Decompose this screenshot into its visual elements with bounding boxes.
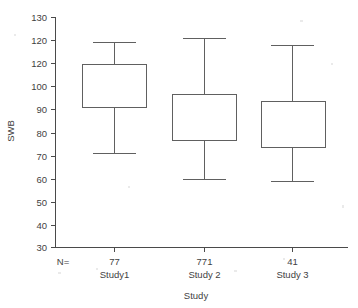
box-plot-group-study1 bbox=[83, 43, 147, 154]
y-tick-label-100: 100 bbox=[31, 81, 47, 92]
y-tick-label-80: 80 bbox=[36, 128, 47, 139]
box-body-3 bbox=[262, 101, 326, 147]
y-tick-label-60: 60 bbox=[36, 174, 47, 185]
n-row-prefix: N= bbox=[57, 256, 70, 267]
n-value-study3: 41 bbox=[287, 256, 298, 267]
x-tick-label-study2: Study 2 bbox=[188, 269, 220, 280]
y-tick-label-70: 70 bbox=[36, 151, 47, 162]
y-axis-title: SWB bbox=[5, 120, 16, 142]
x-axis-title: Study bbox=[184, 290, 209, 301]
y-tick-label-40: 40 bbox=[36, 220, 47, 231]
box-plot-figure: 130 120 120 100 90 80 70 60 50 40 30 SWB bbox=[0, 0, 358, 308]
n-value-study2: 771 bbox=[197, 256, 213, 267]
y-tick-label-30: 30 bbox=[36, 242, 47, 253]
box-body-2 bbox=[173, 95, 237, 141]
y-tick-label-110: 120 bbox=[31, 58, 47, 69]
y-tick-label-130: 130 bbox=[31, 12, 47, 23]
y-tick-label-120: 120 bbox=[31, 35, 47, 46]
box-body-1 bbox=[83, 65, 147, 107]
n-value-study1: 77 bbox=[109, 256, 120, 267]
x-tick-label-study1: Study1 bbox=[100, 269, 130, 280]
y-tick-label-50: 50 bbox=[36, 197, 47, 208]
box-plot-group-study3 bbox=[262, 45, 326, 181]
x-tick-label-study3: Study 3 bbox=[276, 269, 308, 280]
x-tick-marks bbox=[115, 248, 293, 253]
y-tick-label-90: 90 bbox=[36, 104, 47, 115]
box-plot-group-study2 bbox=[173, 38, 237, 179]
chart-canvas: 130 120 120 100 90 80 70 60 50 40 30 SWB bbox=[0, 0, 358, 308]
y-tick-marks bbox=[51, 18, 56, 248]
